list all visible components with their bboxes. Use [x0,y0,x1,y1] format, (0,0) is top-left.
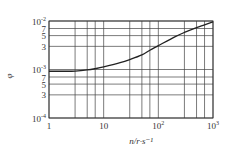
y-axis-ticks: 10-435710-335710-2 [32,16,47,124]
y-tick-label: 10-4 [32,113,46,124]
x-axis-ticks: 110102103 [47,120,219,131]
y-tick-label: 3 [42,90,47,100]
y-axis-label: φ [4,73,14,78]
y-tick-label: 7 [42,24,47,34]
x-tick-label: 1 [47,121,52,131]
grid-lines [49,21,213,118]
y-tick-label: 7 [42,73,47,83]
x-tick-label: 10 [99,121,109,131]
x-tick-label: 102 [152,120,164,131]
x-tick-label: 103 [207,120,219,131]
x-axis-label: n/r·s⁻¹ [129,136,153,146]
log-log-chart: 10-435710-335710-2 110102103 φ n/r·s⁻¹ [0,0,227,157]
y-tick-label: 3 [42,42,47,52]
